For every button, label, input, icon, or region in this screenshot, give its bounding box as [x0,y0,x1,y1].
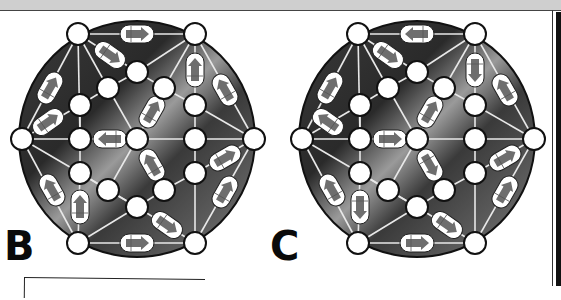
puzzle-node[interactable] [126,61,148,83]
puzzle-node[interactable] [464,94,486,116]
puzzle-node[interactable] [377,179,399,201]
puzzle-node[interactable] [243,128,265,150]
puzzle-node[interactable] [349,94,371,116]
puzzle-node[interactable] [153,77,175,99]
arrow-tile[interactable] [71,190,89,224]
puzzle-node[interactable] [406,61,428,83]
puzzle-node[interactable] [11,128,33,150]
puzzle-node[interactable] [97,179,119,201]
puzzle-node[interactable] [184,94,206,116]
puzzle-node[interactable] [97,77,119,99]
arrow-tile[interactable] [120,234,154,252]
puzzle-node[interactable] [464,232,486,254]
puzzle-board-c [280,0,560,286]
arrow-tile[interactable] [400,234,434,252]
puzzle-node[interactable] [433,179,455,201]
puzzle-node[interactable] [184,23,206,45]
arrow-tile[interactable] [93,130,127,148]
puzzle-label-b: B [4,226,33,266]
puzzle-node[interactable] [126,196,148,218]
arrow-tile[interactable] [466,53,484,87]
puzzle-node[interactable] [69,128,91,150]
puzzle-label-c: C [270,226,297,266]
puzzle-node[interactable] [349,128,371,150]
puzzle-node[interactable] [406,128,428,150]
puzzle-node[interactable] [184,232,206,254]
puzzle-node[interactable] [67,232,89,254]
puzzle-node[interactable] [464,23,486,45]
answer-box [24,277,205,300]
puzzle-node[interactable] [464,162,486,184]
puzzle-node[interactable] [184,162,206,184]
puzzle-node[interactable] [153,179,175,201]
arrow-tile[interactable] [186,53,204,87]
puzzle-node[interactable] [184,128,206,150]
puzzle-node[interactable] [377,77,399,99]
arrow-tile[interactable] [373,130,407,148]
puzzle-node[interactable] [69,94,91,116]
puzzle-node[interactable] [523,128,545,150]
puzzle-node[interactable] [406,196,428,218]
puzzle-node[interactable] [347,23,369,45]
arrow-tile[interactable] [351,190,369,224]
puzzle-node[interactable] [433,77,455,99]
arrow-tile[interactable] [120,25,154,43]
puzzle-node[interactable] [67,23,89,45]
puzzle-node[interactable] [347,232,369,254]
puzzle-node[interactable] [69,162,91,184]
puzzle-node[interactable] [291,128,313,150]
puzzle-node[interactable] [349,162,371,184]
puzzle-node[interactable] [126,128,148,150]
puzzle-board-b [0,0,280,286]
puzzle-node[interactable] [464,128,486,150]
arrow-tile[interactable] [400,25,434,43]
